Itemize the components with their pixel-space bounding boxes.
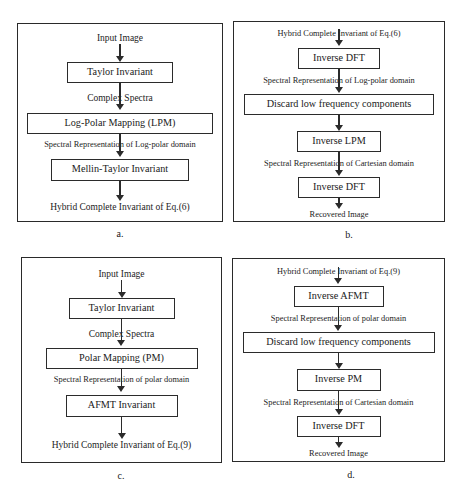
panel-a-arrow-4	[115, 181, 126, 201]
panel-a-caption: a.	[105, 228, 135, 239]
panel-b-caption: b.	[334, 229, 364, 240]
panel-c-arrow-4	[116, 417, 127, 439]
panel-b-node-inverse-dft-1: Inverse DFT	[298, 48, 380, 69]
panel-c: Input Image Taylor Invariant Complex Spe…	[21, 257, 222, 463]
panel-d-node-discard-low-frequency: Discard low frequency components	[243, 332, 435, 353]
panel-d-node-inverse-dft: Inverse DFT	[297, 416, 381, 437]
panel-d-node-inverse-afmt: Inverse AFMT	[294, 286, 384, 307]
panel-d-caption: d.	[336, 469, 366, 480]
panel-b-node-inverse-lpm: Inverse LPM	[297, 131, 381, 152]
panel-d-arrow-4	[333, 437, 344, 448]
panel-b-end-label: Recovered Image	[310, 209, 369, 221]
panel-b-arrow-4	[334, 198, 345, 209]
panel-d-label-spectral-polar: Spectral Representation of polar domain	[271, 313, 406, 325]
panel-a-end-label: Hybrid Complete Invariant of Eq.(6)	[50, 201, 190, 213]
panel-b-label-spectral-log-polar: Spectral Representation of Log-polar dom…	[263, 75, 415, 87]
panel-a-label-complex-spectra: Complex Spectra	[87, 92, 153, 106]
panel-c-node-afmt-invariant: AFMT Invariant	[66, 395, 178, 416]
panel-b-start-label: Hybrid Complete Invariant of Eq.(6)	[277, 28, 400, 40]
panel-b: Hybrid Complete Invariant of Eq.(6) Inve…	[233, 21, 445, 222]
panel-b-label-spectral-cartesian: Spectral Representation of Cartesian dom…	[264, 158, 414, 170]
panel-c-caption: c.	[106, 470, 136, 481]
panel-b-node-inverse-dft-2: Inverse DFT	[298, 177, 380, 198]
panel-c-label-complex-spectra: Complex Spectra	[89, 328, 155, 340]
panel-d-arrow-2	[333, 353, 344, 369]
panel-c-node-taylor-invariant: Taylor Invariant	[69, 298, 175, 319]
panel-a-arrow-1	[115, 44, 126, 62]
panel-a-start-label: Input Image	[97, 32, 143, 44]
panel-b-node-discard-low-frequency: Discard low frequency components	[244, 94, 434, 115]
panel-c-end-label: Hybrid Complete Invariant of Eq.(9)	[52, 439, 192, 451]
panel-a: Input Image Taylor Invariant Complex Spe…	[17, 23, 223, 222]
panel-d-node-inverse-pm: Inverse PM	[297, 369, 381, 390]
panel-d: Hybrid Complete Invariant of Eq.(9) Inve…	[232, 258, 445, 462]
panel-a-node-log-polar-mapping: Log-Polar Mapping (LPM)	[27, 113, 213, 134]
panel-d-start-label: Hybrid Complete Invariant of Eq.(9)	[277, 266, 400, 278]
figure-four-flowcharts: Input Image Taylor Invariant Complex Spe…	[0, 0, 462, 496]
panel-b-arrow-2	[334, 115, 345, 131]
panel-d-end-label: Recovered Image	[309, 448, 368, 460]
panel-c-label-spectral-polar: Spectral Representation of polar domain	[54, 374, 189, 386]
panel-a-node-taylor-invariant: Taylor Invariant	[67, 62, 173, 83]
panel-c-start-label: Input Image	[98, 268, 144, 280]
panel-c-node-polar-mapping: Polar Mapping (PM)	[46, 348, 198, 369]
panel-a-node-mellin-taylor-invariant: Mellin-Taylor Invariant	[51, 159, 189, 180]
panel-c-arrow-1	[116, 280, 127, 298]
panel-d-label-spectral-cartesian: Spectral Representation of Cartesian dom…	[264, 397, 414, 409]
panel-a-label-spectral-log-polar: Spectral Representation of Log-polar dom…	[44, 139, 196, 151]
